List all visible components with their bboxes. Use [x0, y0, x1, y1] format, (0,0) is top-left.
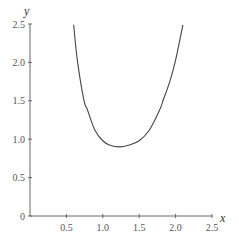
y-tick-label: 1.0: [13, 134, 26, 145]
y-tick-label: 0: [20, 211, 25, 222]
tick-labels: 0.51.01.52.02.500.51.01.52.02.5: [13, 19, 219, 234]
x-tick-label: 2.0: [169, 222, 182, 233]
data-curve: [74, 25, 183, 147]
ticks: [28, 24, 212, 218]
chart: 0.51.01.52.02.500.51.01.52.02.5 x y: [0, 0, 239, 244]
y-tick-label: 2.5: [13, 19, 26, 30]
axes: [30, 24, 212, 216]
y-tick-label: 0.5: [13, 172, 26, 183]
y-axis-label: y: [23, 4, 30, 18]
x-axis-label: x: [219, 211, 226, 225]
x-tick-label: 1.0: [97, 222, 110, 233]
x-tick-label: 2.5: [206, 222, 219, 233]
x-tick-label: 0.5: [60, 222, 73, 233]
x-tick-label: 1.5: [133, 222, 146, 233]
y-tick-label: 1.5: [13, 95, 26, 106]
y-tick-label: 2.0: [13, 57, 26, 68]
